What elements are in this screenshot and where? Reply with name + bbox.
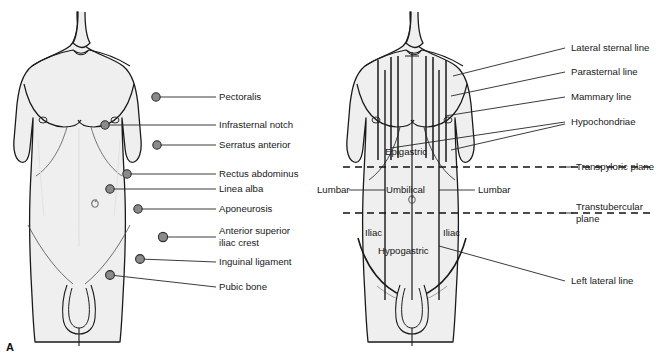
region-label-umbilical: Umbilical [386, 184, 425, 196]
marker-inguinal-ligament [136, 255, 145, 264]
leader-parasternal-line [451, 72, 565, 96]
label-anterior-superior-iliac-crest-line1: Anterior superior [219, 225, 290, 236]
region-label-lumbar-right: Lumbar [317, 184, 350, 196]
marker-anterior-superior-iliac-crest [158, 232, 167, 241]
label-aponeurosis: Aponeurosis [219, 203, 272, 215]
torso-body-a [14, 12, 141, 346]
region-label-lumbar-left: Lumbar [478, 184, 511, 196]
leader-lateral-sternal-line [453, 48, 565, 76]
marker-rectus-abdominus [123, 170, 131, 178]
label-transtubercular-plane-line1: Transtubercular [576, 201, 643, 212]
label-transtubercular-plane: Transtubercularplane [576, 201, 643, 224]
label-anterior-superior-iliac-crest-line2: iliac crest [219, 237, 259, 248]
panel-b-illustration [333, 0, 665, 364]
label-anterior-superior-iliac-crest: Anterior superioriliac crest [219, 225, 290, 248]
label-pubic-bone: Pubic bone [219, 281, 267, 293]
label-parasternal-line: Parasternal line [571, 66, 638, 78]
label-hypochondriae: Hypochondriae [571, 116, 636, 128]
label-pectoralis: Pectoralis [219, 91, 261, 103]
label-transpyloric-plane: Transpyloric plane [576, 161, 654, 173]
panel-a-letter: A [6, 341, 14, 353]
marker-pectoralis [152, 93, 160, 101]
label-infrasternal-notch: Infrasternal notch [219, 119, 293, 131]
marker-pubic-bone [106, 271, 115, 280]
label-left-lateral-line: Left lateral line [571, 275, 633, 287]
panel-a-illustration [0, 0, 332, 364]
panel-b: Lateral sternal line Parasternal line Ma… [333, 0, 665, 364]
label-serratus-anterior: Serratus anterior [219, 139, 290, 151]
label-rectus-abdominus: Rectus abdominus [219, 168, 298, 180]
marker-aponeurosis [134, 205, 142, 213]
label-transtubercular-plane-line2: plane [576, 213, 599, 224]
anatomy-figure: Pectoralis Infrasternal notch Serratus a… [0, 0, 665, 364]
label-inguinal-ligament: Inguinal ligament [219, 256, 292, 268]
label-mammary-line: Mammary line [571, 91, 631, 103]
leader-pubic-bone [110, 275, 216, 287]
marker-infrasternal-notch [101, 121, 109, 129]
label-linea-alba: Linea alba [219, 183, 263, 195]
region-label-iliac-right: Iliac [365, 227, 382, 239]
region-label-epigastric: Epigastric [385, 146, 427, 158]
torso-body-b [347, 12, 474, 346]
panel-a: Pectoralis Infrasternal notch Serratus a… [0, 0, 332, 364]
marker-serratus-anterior [153, 141, 161, 149]
marker-linea-alba [106, 185, 114, 193]
region-label-iliac-left: Iliac [443, 227, 460, 239]
label-lateral-sternal-line: Lateral sternal line [571, 42, 649, 54]
leader-inguinal-ligament [140, 259, 216, 262]
region-label-hypogastric: Hypogastric [378, 245, 429, 257]
